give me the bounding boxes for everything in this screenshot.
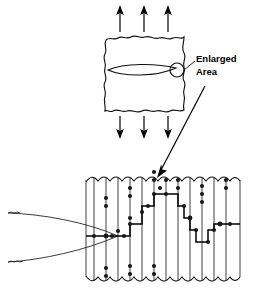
load-arrows-up-group [116, 5, 172, 32]
void-dot [158, 186, 162, 190]
grain-structure-panel [8, 170, 240, 281]
enlargement-pointer-arrow-icon [157, 86, 205, 178]
load-arrow-up-icon [164, 5, 172, 32]
load-arrows-down-group [116, 116, 172, 139]
load-arrow-down-icon [164, 116, 172, 139]
load-arrow-up-icon [116, 5, 124, 32]
enlarged-area-label-line2: Area [196, 66, 218, 77]
void-dot [128, 264, 132, 268]
void-dot [152, 264, 156, 268]
void-dot [116, 229, 120, 233]
void-dot [128, 222, 132, 226]
void-dot [200, 192, 204, 196]
void-dot [128, 216, 132, 220]
specimen-panel [104, 5, 185, 139]
void-dot [218, 222, 223, 227]
void-dot [152, 178, 156, 182]
load-arrow-down-icon [116, 116, 124, 139]
load-arrow-down-icon [140, 116, 148, 139]
fracture-diagram-figure: Enlarged Area [0, 0, 264, 305]
crack-lower-flank [8, 236, 118, 262]
void-dot [128, 272, 132, 276]
void-dot [104, 204, 108, 208]
void-dot [212, 228, 216, 232]
load-arrow-up-icon [140, 5, 148, 32]
enlarged-area-label-line1: Enlarged [196, 53, 237, 64]
void-dot [152, 170, 156, 174]
void-dot [104, 266, 108, 270]
callout-leader-line [184, 61, 195, 70]
void-dot [128, 186, 132, 190]
void-dot [104, 274, 108, 278]
void-dot [92, 234, 96, 238]
void-dot [224, 178, 228, 182]
void-dot [176, 178, 180, 182]
void-dot [140, 210, 144, 214]
grain-top-scalloped-edge [86, 177, 240, 182]
void-dot [152, 272, 156, 276]
void-dot [146, 204, 150, 208]
void-dot [110, 234, 114, 238]
void-dots-group [92, 170, 232, 278]
void-dot [152, 192, 156, 196]
void-dot [188, 216, 193, 221]
void-dot [176, 186, 180, 190]
void-dot [164, 192, 168, 196]
void-dot [200, 184, 204, 188]
void-dot [200, 200, 204, 204]
void-dot [122, 234, 126, 238]
stepped-crack-path [86, 194, 240, 242]
grain-boundary-lines-group [94, 177, 226, 281]
void-dot [206, 240, 210, 244]
void-dot [104, 196, 108, 200]
specimen-body-outline [104, 36, 185, 112]
void-dot [164, 178, 168, 182]
figure-canvas: Enlarged Area [0, 0, 264, 305]
incoming-crack-flanks [8, 212, 118, 262]
void-dot [194, 228, 198, 232]
void-dot [228, 222, 232, 226]
void-dot [128, 194, 132, 198]
crack-lens-shape [108, 64, 176, 75]
void-dot [104, 234, 109, 239]
grain-bottom-scalloped-edge [86, 276, 240, 281]
void-dot [182, 204, 186, 208]
void-dot [224, 186, 228, 190]
crack-upper-flank [8, 213, 118, 236]
enlarged-area-callout: Enlarged Area [184, 53, 237, 77]
